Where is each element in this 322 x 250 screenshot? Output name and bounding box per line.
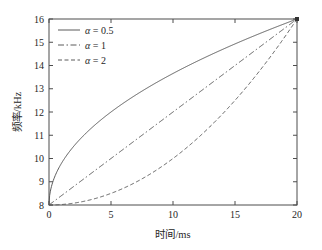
y-tick-label: 13	[34, 83, 44, 94]
y-tick-label: 14	[34, 60, 44, 71]
chart-figure: 8 9 10 11 12 13 14 15 16 0 5 10 15 20 时间…	[0, 0, 322, 250]
x-tick-label: 0	[47, 209, 52, 220]
y-tick-label: 12	[34, 107, 44, 118]
legend-label-alpha-1: α = 1	[85, 40, 106, 51]
x-tick-label: 15	[230, 209, 240, 220]
y-tick-label: 11	[34, 130, 44, 141]
chart-canvas: 8 9 10 11 12 13 14 15 16 0 5 10 15 20 时间…	[0, 0, 322, 250]
x-tick-label: 20	[292, 209, 302, 220]
y-tick-label: 16	[34, 14, 44, 25]
y-axis-title: 频率/kHz	[11, 91, 23, 132]
x-tick-label: 10	[168, 209, 178, 220]
legend-label-alpha-0.5: α = 0.5	[85, 25, 113, 36]
legend-label-alpha-2: α = 2	[85, 55, 106, 66]
y-tick-label: 8	[39, 200, 44, 211]
x-axis-title: 时间/ms	[155, 228, 190, 240]
legend: α = 0.5 α = 1 α = 2	[58, 25, 113, 66]
legend-eq-1: = 1	[93, 40, 106, 51]
y-tick-label: 10	[34, 153, 44, 164]
x-tick-labels: 0 5 10 15 20	[47, 209, 303, 220]
y-tick-label: 15	[34, 37, 44, 48]
legend-eq-2: = 2	[93, 55, 106, 66]
y-tick-labels: 8 9 10 11 12 13 14 15 16	[34, 14, 44, 211]
convergence-point-marker	[295, 17, 299, 21]
y-tick-label: 9	[39, 176, 44, 187]
x-tick-label: 5	[109, 209, 114, 220]
legend-eq-0: = 0.5	[93, 25, 114, 36]
